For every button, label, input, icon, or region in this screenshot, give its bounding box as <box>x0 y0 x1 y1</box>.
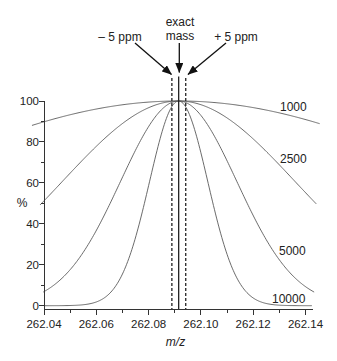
x-tick-label: 262.14 <box>288 318 324 330</box>
x-tick-label: 262.12 <box>236 318 271 330</box>
y-tick-label: 0 <box>33 300 39 312</box>
series-labels-group: 10002500500010000 <box>272 100 307 307</box>
series-label-2500: 2500 <box>280 152 307 166</box>
curves-group <box>32 101 320 306</box>
y-tick-label: 80 <box>26 136 39 148</box>
minus-5-ppm-arrow-icon <box>135 43 172 75</box>
x-axis-title: m/z <box>166 335 185 349</box>
curve-resolution-1000 <box>32 101 320 125</box>
plus-5-ppm-arrow-icon <box>188 43 226 75</box>
curve-resolution-10000 <box>44 101 312 306</box>
exact-mass-label-line2: mass <box>166 29 195 43</box>
minus-5-ppm-label: – 5 ppm <box>98 30 141 44</box>
mass-resolution-chart: 262.04262.06262.08262.10262.12262.140204… <box>0 0 337 361</box>
series-label-1000: 1000 <box>280 100 307 114</box>
y-tick-label: 60 <box>26 177 39 189</box>
x-tick-label: 262.08 <box>131 318 166 330</box>
exact-mass-label-line1: exact <box>166 15 195 29</box>
x-tick-label: 262.10 <box>183 318 218 330</box>
x-tick-label: 262.06 <box>79 318 114 330</box>
plus-5-ppm-label: + 5 ppm <box>214 30 258 44</box>
x-tick-label: 262.04 <box>26 318 62 330</box>
y-tick-label: 20 <box>26 259 39 271</box>
y-axis-title: % <box>17 196 28 210</box>
series-label-5000: 5000 <box>279 244 306 258</box>
series-label-10000: 10000 <box>272 292 306 306</box>
reference-lines-group <box>172 77 186 310</box>
y-tick-label: 100 <box>20 95 39 107</box>
y-tick-label: 40 <box>26 218 39 230</box>
